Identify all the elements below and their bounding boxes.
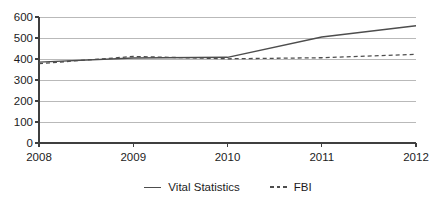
y-tick-label: 100 bbox=[14, 116, 33, 128]
solid-line-marker-icon bbox=[144, 187, 161, 188]
y-tick-label: 500 bbox=[14, 32, 33, 44]
legend-label-vital-statistics: Vital Statistics bbox=[168, 181, 239, 193]
x-tick-label: 2009 bbox=[120, 151, 146, 163]
series-line-vital-statistics bbox=[39, 26, 416, 62]
y-tick-label: 200 bbox=[14, 95, 33, 107]
dashed-line-marker-icon bbox=[270, 186, 287, 188]
x-tick-label: 2008 bbox=[26, 151, 52, 163]
chart-figure: 010020030040050060020082009201020112012 … bbox=[0, 0, 438, 211]
line-chart-canvas: 010020030040050060020082009201020112012 bbox=[0, 0, 438, 176]
x-tick-label: 2012 bbox=[403, 151, 429, 163]
chart-legend: Vital Statistics FBI bbox=[0, 177, 438, 197]
x-tick-label: 2010 bbox=[215, 151, 241, 163]
x-tick-label: 2011 bbox=[309, 151, 334, 163]
legend-label-fbi: FBI bbox=[294, 181, 312, 193]
y-tick-label: 0 bbox=[27, 137, 33, 149]
legend-item-fbi: FBI bbox=[270, 181, 312, 193]
y-tick-label: 400 bbox=[14, 53, 33, 65]
legend-item-vital-statistics: Vital Statistics bbox=[144, 181, 239, 193]
y-tick-label: 600 bbox=[14, 11, 33, 23]
y-tick-label: 300 bbox=[14, 74, 33, 86]
